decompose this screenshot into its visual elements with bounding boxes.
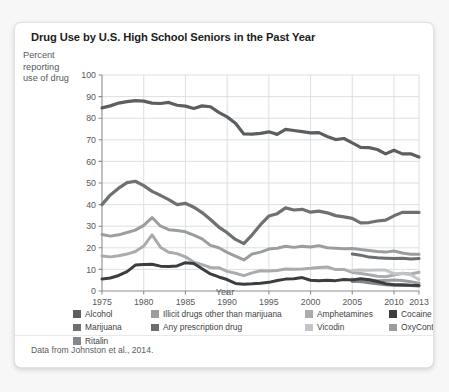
x-tick-label: 1990 [217, 297, 237, 307]
legend-swatch-icon [389, 310, 397, 318]
legend-item-illicit-drugs-other-than-marijuana[interactable]: Illicit drugs other than marijuana [151, 307, 282, 321]
x-axis-title: Year [15, 287, 434, 297]
legend-label: Alcohol [85, 309, 112, 319]
x-tick-label: 2013 [409, 297, 429, 307]
y-tick-label: 80 [86, 113, 96, 123]
x-tick-label: 1980 [134, 297, 154, 307]
screenshot-root: Drug Use by U.S. High School Seniors in … [0, 0, 449, 392]
x-tick-label: 2010 [384, 297, 404, 307]
legend-item-marijuana[interactable]: Marijuana [73, 321, 122, 335]
chart-card: Drug Use by U.S. High School Seniors in … [14, 22, 434, 368]
x-tick-label: 1995 [259, 297, 279, 307]
legend-item-amphetamines[interactable]: Amphetamines [305, 307, 373, 321]
y-tick-label: 50 [86, 178, 96, 188]
legend-swatch-icon [73, 310, 81, 318]
legend-column: AlcoholMarijuanaRitalin [73, 307, 122, 348]
line-chart-svg: 0102030405060708090100197519801985199019… [15, 23, 434, 323]
legend-swatch-icon [389, 324, 397, 332]
y-tick-label: 90 [86, 92, 96, 102]
legend-item-alcohol[interactable]: Alcohol [73, 307, 122, 321]
legend-swatch-icon [151, 310, 159, 318]
legend-column: AmphetaminesVicodin [305, 307, 373, 334]
legend-divider [15, 335, 434, 336]
plot-area: 0102030405060708090100197519801985199019… [15, 23, 434, 323]
legend-item-vicodin[interactable]: Vicodin [305, 321, 373, 335]
y-tick-label: 70 [86, 135, 96, 145]
legend-label: Amphetamines [317, 309, 373, 319]
legend-swatch-icon [151, 324, 159, 332]
y-tick-label: 100 [81, 70, 96, 80]
legend-label: OxyContin [401, 322, 434, 332]
legend-item-any-prescription-drug[interactable]: Any prescription drug [151, 321, 282, 335]
legend-label: Illicit drugs other than marijuana [163, 309, 282, 319]
y-tick-label: 20 [86, 243, 96, 253]
legend-column: CocaineOxyContin [389, 307, 434, 334]
x-tick-label: 1985 [176, 297, 196, 307]
legend-swatch-icon [73, 337, 81, 345]
legend-column: Illicit drugs other than marijuanaAny pr… [151, 307, 282, 334]
legend-swatch-icon [73, 324, 81, 332]
legend-swatch-icon [305, 324, 313, 332]
y-tick-label: 60 [86, 157, 96, 167]
y-tick-label: 10 [86, 265, 96, 275]
x-tick-label: 1975 [92, 297, 112, 307]
legend-item-oxycontin[interactable]: OxyContin [389, 321, 434, 335]
legend-item-cocaine[interactable]: Cocaine [389, 307, 434, 321]
legend-label: Cocaine [401, 309, 432, 319]
x-tick-label: 2005 [342, 297, 362, 307]
legend-label: Marijuana [85, 322, 122, 332]
x-tick-label: 2000 [301, 297, 321, 307]
legend-label: Any prescription drug [163, 322, 242, 332]
legend-swatch-icon [305, 310, 313, 318]
y-tick-label: 30 [86, 221, 96, 231]
y-tick-label: 40 [86, 200, 96, 210]
legend-label: Vicodin [317, 322, 344, 332]
source-caption: Data from Johnston et al., 2014. [31, 345, 153, 355]
